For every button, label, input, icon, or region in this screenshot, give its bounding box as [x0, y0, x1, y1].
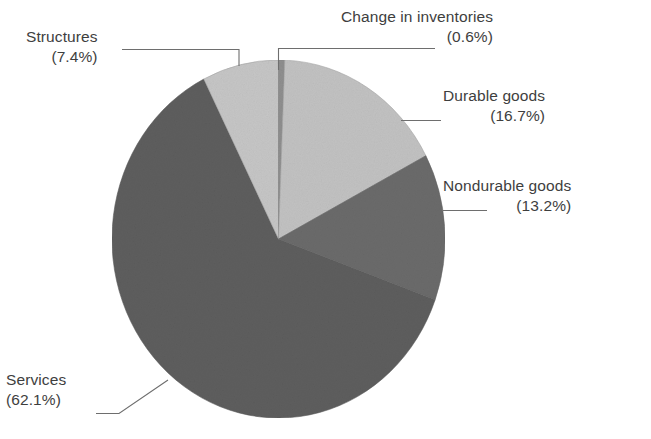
pie-chart-figure: Change in inventories (0.6%) Structures … [0, 0, 651, 439]
slice-label-services-name: Services [6, 371, 66, 388]
slice-label-durable-goods-name: Durable goods [443, 87, 545, 104]
slice-label-services: Services (62.1%) [6, 370, 66, 410]
pie-chart-graphic [112, 60, 445, 418]
slice-label-services-percent: (62.1%) [6, 390, 66, 410]
slice-label-durable-goods: Durable goods (16.7%) [443, 86, 545, 126]
pie-svg [112, 60, 445, 418]
slice-label-nondurable-goods: Nondurable goods (13.2%) [443, 176, 571, 216]
slice-label-nondurable-goods-percent: (13.2%) [443, 196, 571, 216]
slice-label-structures-percent: (7.4%) [26, 47, 98, 67]
slice-label-structures: Structures (7.4%) [26, 27, 98, 67]
slice-label-change-inventories-name: Change in inventories [341, 8, 493, 25]
slice-label-structures-name: Structures [26, 28, 98, 45]
slice-label-change-inventories-percent: (0.6%) [341, 27, 493, 47]
slice-label-durable-goods-percent: (16.7%) [443, 106, 545, 126]
slice-label-change-inventories: Change in inventories (0.6%) [341, 7, 493, 47]
slice-label-nondurable-goods-name: Nondurable goods [443, 177, 571, 194]
